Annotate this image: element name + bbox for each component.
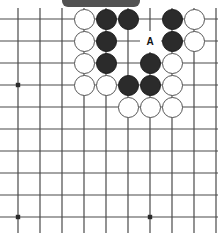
black-stone	[162, 31, 183, 52]
white-stone	[184, 31, 205, 52]
scan-shadow-bar	[62, 0, 140, 7]
point-marker-label: A	[140, 31, 161, 52]
white-stone	[162, 53, 183, 74]
white-stone	[96, 75, 117, 96]
star-point	[148, 215, 152, 219]
black-stone	[162, 9, 183, 30]
white-stone	[74, 9, 95, 30]
star-point	[16, 215, 20, 219]
white-stone	[118, 97, 139, 118]
black-stone	[118, 9, 139, 30]
star-point	[16, 83, 20, 87]
black-stone	[140, 53, 161, 74]
black-stone	[96, 31, 117, 52]
white-stone	[74, 53, 95, 74]
white-stone	[162, 97, 183, 118]
black-stone	[118, 75, 139, 96]
black-stone	[140, 75, 161, 96]
white-stone	[140, 97, 161, 118]
white-stone	[184, 9, 205, 30]
white-stone	[162, 75, 183, 96]
black-stone	[96, 53, 117, 74]
white-stone	[74, 31, 95, 52]
go-board-diagram: A	[0, 0, 218, 233]
white-stone	[74, 75, 95, 96]
black-stone	[96, 9, 117, 30]
